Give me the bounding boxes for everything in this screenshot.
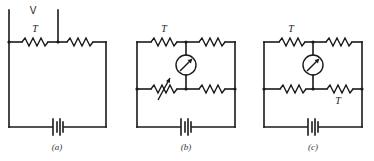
galvanometer-icon [176, 55, 196, 75]
circuit-figure: V T (a) T [0, 0, 374, 161]
thermistor-label: T [161, 23, 168, 34]
thermistor-resistor [279, 38, 305, 46]
galvanometer-icon [303, 55, 323, 75]
battery-icon [181, 119, 191, 135]
panel-caption: (b) [181, 142, 192, 152]
panel-caption: (c) [308, 142, 318, 152]
panel-b: T (b) [135, 23, 236, 152]
thermistor-resistor [151, 38, 177, 46]
battery-icon [308, 119, 318, 135]
thermistor-resistor [327, 85, 353, 93]
battery-icon [53, 119, 63, 135]
panel-caption: (a) [52, 142, 63, 152]
thermistor-resistor [22, 38, 48, 46]
junction [56, 40, 59, 43]
fixed-resistor [67, 38, 93, 46]
fixed-resistor [326, 38, 352, 46]
thermistor-label-bottom: T [335, 95, 342, 106]
voltage-label: V [30, 5, 37, 16]
fixed-resistor [199, 38, 225, 46]
fixed-resistor [280, 85, 306, 93]
panel-a: V T (a) [7, 5, 106, 152]
fixed-resistor [199, 85, 225, 93]
thermistor-label: T [32, 23, 39, 34]
panel-c: T T (c) [262, 23, 363, 152]
thermistor-label-top: T [288, 23, 295, 34]
